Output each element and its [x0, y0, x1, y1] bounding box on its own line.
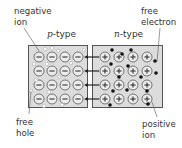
positive-ion-label: positive ion — [142, 119, 178, 140]
negative-ion — [60, 94, 70, 104]
negative-ion — [47, 66, 57, 76]
free-electron — [108, 103, 112, 107]
positive-ion — [114, 94, 124, 104]
negative-ion — [73, 80, 83, 90]
free-hole — [45, 62, 48, 65]
free-hole — [43, 47, 46, 50]
p-type-label: p-type — [47, 29, 77, 39]
free-electron-label: free electron — [141, 6, 176, 27]
free-electron — [153, 59, 157, 63]
free-hole-label: free hole — [16, 117, 36, 138]
free-hole — [60, 103, 63, 106]
free-hole — [47, 90, 50, 93]
positive-ion — [114, 80, 124, 90]
positive-ion — [114, 66, 124, 76]
negative-ion — [60, 52, 70, 62]
negative-ion — [47, 80, 57, 90]
n-type-label: n-type — [114, 29, 144, 39]
free-electron — [110, 48, 114, 52]
free-electron — [111, 89, 115, 93]
positive-ion — [128, 94, 138, 104]
positive-ion — [142, 52, 152, 62]
free-hole — [56, 49, 59, 52]
positive-ion — [128, 52, 138, 62]
negative-ion-label: negative ion — [14, 6, 54, 27]
free-electron — [139, 75, 143, 79]
negative-ion — [47, 94, 57, 104]
free-hole — [42, 104, 45, 107]
free-electron — [126, 64, 130, 68]
free-hole — [57, 75, 60, 78]
positive-ion — [100, 66, 110, 76]
positive-ion — [142, 66, 152, 76]
free-electron — [145, 89, 149, 93]
negative-ion — [60, 66, 70, 76]
positive-ion — [142, 94, 152, 104]
negative-ion — [34, 66, 44, 76]
positive-ion — [100, 94, 110, 104]
free-hole — [32, 62, 35, 65]
negative-ion — [34, 94, 44, 104]
negative-ion — [73, 94, 83, 104]
free-electron — [120, 52, 124, 56]
positive-ion — [142, 80, 152, 90]
negative-ion — [60, 80, 70, 90]
free-electron — [146, 102, 150, 106]
free-electron — [117, 75, 121, 79]
positive-ion — [128, 80, 138, 90]
free-electron — [154, 71, 158, 75]
free-hole — [69, 61, 72, 64]
negative-ion — [34, 52, 44, 62]
free-hole — [82, 48, 85, 51]
pn-junction-diagram: p-type n-type negative ion free electron… — [0, 0, 182, 148]
positive-ion — [128, 66, 138, 76]
free-electron — [129, 48, 133, 52]
negative-ion — [73, 66, 83, 76]
positive-ion — [100, 80, 110, 90]
free-hole — [34, 78, 37, 81]
free-hole — [50, 46, 53, 49]
negative-ion — [47, 52, 57, 62]
positive-ion — [100, 52, 110, 62]
negative-ion — [73, 52, 83, 62]
free-electron — [125, 88, 129, 92]
free-electron — [109, 62, 113, 66]
